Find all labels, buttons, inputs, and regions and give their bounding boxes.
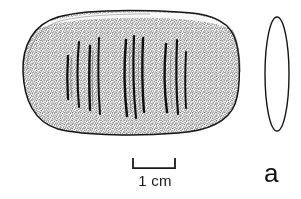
scale-bar [0,0,301,199]
scale-bar-caption: 1 cm [120,173,190,188]
archaeological-illustration-figure: 1 cm a [0,0,301,199]
figure-panel-label: a [264,160,278,186]
